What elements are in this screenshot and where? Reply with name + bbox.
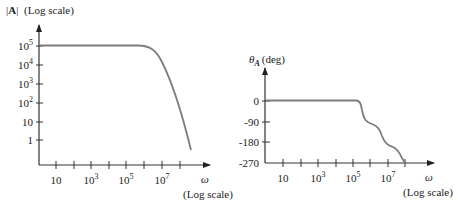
x-label-1e5: 105 bbox=[119, 172, 134, 186]
abs-bar-right: | bbox=[16, 4, 18, 16]
y-label-minus-270: -270 bbox=[239, 157, 260, 169]
phase-chart: θA(deg) 0 -90 -180 -270 1 bbox=[239, 53, 453, 199]
magnitude-y-title-suffix: (Log scale) bbox=[24, 4, 74, 17]
y-label-10: 10 bbox=[22, 116, 34, 128]
phase-y-ticks bbox=[262, 101, 270, 142]
phase-y-labels: 0 -90 -180 -270 bbox=[239, 95, 260, 169]
bode-plots: |A| (Log scale) 105 104 103 102 10 1 bbox=[0, 0, 458, 203]
phase-y-title: θA(deg) bbox=[249, 53, 285, 68]
y-label-1e4: 104 bbox=[18, 57, 33, 71]
y-label-minus-180: -180 bbox=[239, 136, 260, 148]
y-label-1e5: 105 bbox=[18, 38, 33, 52]
magnitude-y-labels: 105 104 103 102 10 1 bbox=[18, 38, 34, 146]
abs-symbol: A bbox=[8, 4, 16, 16]
magnitude-x-labels: 10 103 105 107 bbox=[51, 172, 170, 186]
magnitude-curve bbox=[40, 46, 191, 151]
x-label-1e3: 103 bbox=[311, 170, 326, 184]
phase-x-title-suffix: (Log scale) bbox=[403, 186, 453, 199]
x-label-1e7: 107 bbox=[381, 170, 396, 184]
magnitude-y-title: |A| (Log scale) bbox=[6, 4, 74, 17]
x-label-1e3: 103 bbox=[84, 172, 99, 186]
y-label-minus-90: -90 bbox=[244, 116, 259, 128]
y-label-1: 1 bbox=[28, 134, 34, 146]
magnitude-x-title-suffix: (Log scale) bbox=[183, 188, 233, 201]
y-label-1e2: 102 bbox=[18, 95, 33, 109]
y-label-1e3: 103 bbox=[18, 76, 33, 90]
phase-x-labels: 10 103 105 107 bbox=[278, 170, 396, 184]
y-label-0: 0 bbox=[254, 95, 260, 107]
x-label-10: 10 bbox=[278, 172, 290, 184]
x-label-1e5: 105 bbox=[346, 170, 361, 184]
magnitude-chart: |A| (Log scale) 105 104 103 102 10 1 bbox=[6, 4, 233, 201]
phase-curve bbox=[266, 101, 405, 164]
x-label-1e7: 107 bbox=[155, 172, 170, 186]
phase-x-title-omega: ω bbox=[425, 171, 433, 183]
x-label-10: 10 bbox=[51, 174, 63, 186]
magnitude-x-title-omega: ω bbox=[201, 173, 209, 185]
